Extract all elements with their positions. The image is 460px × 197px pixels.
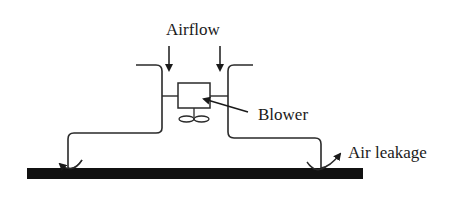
- hovercraft-diagram: Airflow Blower Air leakage: [0, 0, 460, 197]
- propeller-blade-right: [194, 116, 209, 122]
- blower-label: Blower: [258, 105, 308, 124]
- propeller-blade-left: [179, 116, 194, 122]
- ground-surface: [27, 168, 363, 179]
- airflow-label: Airflow: [166, 20, 221, 39]
- air-leakage-label: Air leakage: [348, 143, 427, 162]
- right-leakage-arrow-icon: [321, 154, 340, 168]
- blower-box: [178, 83, 210, 108]
- left-duct-wall: [68, 65, 162, 168]
- left-leakage-arc-tail: [68, 160, 82, 168]
